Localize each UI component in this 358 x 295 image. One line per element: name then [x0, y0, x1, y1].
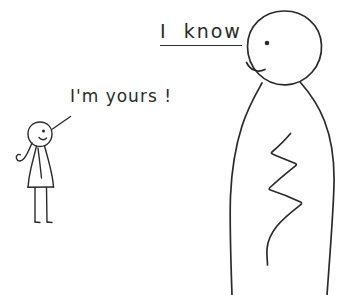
large-figure-head [248, 11, 322, 85]
large-figure-right-body-outline [301, 83, 335, 295]
caption-i-know: I know [160, 20, 242, 42]
speech-leader-line [53, 117, 71, 130]
large-figure-body-zigzag [267, 134, 302, 266]
comic-canvas: I know I'm yours ! [0, 0, 358, 295]
caption-i-know-part-2: know [184, 20, 242, 46]
small-figure-eye [42, 130, 45, 133]
large-figure [230, 11, 334, 295]
small-figure-dress-right [45, 146, 54, 187]
caption-i-know-part-1: I [160, 20, 168, 46]
caption-im-yours: I'm yours ! [70, 86, 172, 106]
small-figure-right-foot [47, 222, 52, 223]
large-figure-eye [265, 41, 270, 46]
small-figure-dress-left [28, 146, 37, 187]
small-figure-right-leg [47, 188, 48, 223]
small-figure [16, 122, 53, 223]
small-figure-smile [39, 138, 47, 140]
small-figure-hair-curl [16, 143, 32, 161]
large-figure-left-body-outline [230, 83, 262, 295]
small-figure-torso-line [38, 148, 42, 178]
small-figure-left-foot [35, 222, 40, 223]
